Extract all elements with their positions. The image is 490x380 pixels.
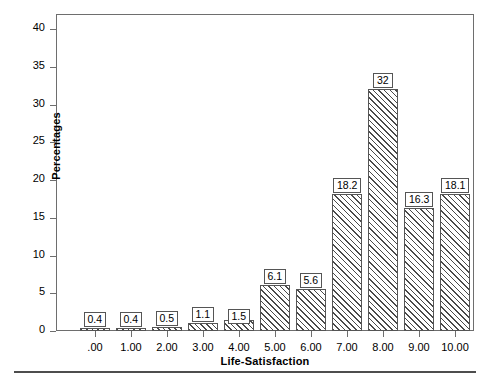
bar-value-label: 0.4 (120, 312, 143, 327)
y-axis-tick-label: 35 (33, 59, 45, 71)
x-axis-tick-mark (311, 331, 312, 337)
y-axis-tick-label: 10 (33, 248, 45, 260)
y-axis-tick-label: 25 (33, 134, 45, 146)
y-axis-tick-label: 0 (39, 323, 45, 335)
bar (404, 208, 434, 331)
y-axis-tick-label: 15 (33, 210, 45, 222)
bar-value-label: 16.3 (405, 192, 433, 207)
y-axis-tick-mark (50, 67, 56, 68)
bar-chart-figure: Percentages 0510152025303540 .001.002.00… (0, 0, 490, 380)
x-axis-tick-mark (455, 331, 456, 337)
bar (332, 194, 362, 331)
y-axis-tick-label: 30 (33, 97, 45, 109)
x-axis-tick-mark (419, 331, 420, 337)
y-axis-tick-mark (50, 105, 56, 106)
bar-value-label: 1.5 (228, 309, 251, 324)
y-axis-tick-mark (50, 180, 56, 181)
y-axis-tick-mark (50, 142, 56, 143)
bar (368, 89, 398, 331)
x-axis-tick-mark (275, 331, 276, 337)
bottom-divider (14, 371, 476, 373)
bar (80, 328, 110, 331)
bar (188, 323, 218, 331)
bar-value-label: 5.6 (300, 273, 323, 288)
x-axis-title: Life-Satisfaction (56, 355, 474, 367)
bar-value-label: 18.2 (333, 178, 361, 193)
x-axis-tick-mark (203, 331, 204, 337)
bar-value-label: 0.4 (84, 312, 107, 327)
y-axis-tick-mark (50, 29, 56, 30)
bar-value-label: 0.5 (156, 311, 179, 326)
x-axis-tick-mark (239, 331, 240, 337)
y-axis-tick-mark (50, 331, 56, 332)
y-axis-tick-mark (50, 293, 56, 294)
bar (440, 194, 470, 331)
bar-value-label: 18.1 (441, 178, 469, 193)
x-axis-tick-mark (347, 331, 348, 337)
y-axis-tick-label: 5 (39, 285, 45, 297)
x-axis-tick-mark (131, 331, 132, 337)
y-axis-tick-mark (50, 218, 56, 219)
bar (296, 289, 326, 331)
x-axis-tick-mark (95, 331, 96, 337)
y-axis-tick-label: 20 (33, 172, 45, 184)
x-axis-tick-mark (383, 331, 384, 337)
bar (260, 285, 290, 331)
bar (152, 327, 182, 331)
bar-value-label: 6.1 (264, 269, 287, 284)
x-axis-tick-mark (167, 331, 168, 337)
bar (116, 328, 146, 331)
y-axis-tick-mark (50, 256, 56, 257)
bar-value-label: 32 (373, 73, 393, 88)
x-axis-tick-label: 10.00 (425, 341, 485, 353)
y-axis-tick-label: 40 (33, 21, 45, 33)
bar-value-label: 1.1 (192, 307, 215, 322)
